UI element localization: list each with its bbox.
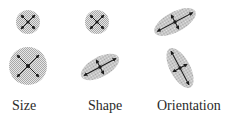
label-shape: Shape — [88, 98, 122, 114]
orientation-ellipse-up-right — [150, 2, 200, 41]
size-large-circle — [9, 47, 47, 85]
shape-circle — [85, 10, 109, 34]
shape-elongated-ellipse — [77, 48, 123, 85]
label-size: Size — [12, 98, 36, 114]
size-small-circle — [16, 10, 40, 34]
orientation-ellipse-down-right — [161, 44, 199, 92]
label-orientation: Orientation — [157, 98, 221, 114]
